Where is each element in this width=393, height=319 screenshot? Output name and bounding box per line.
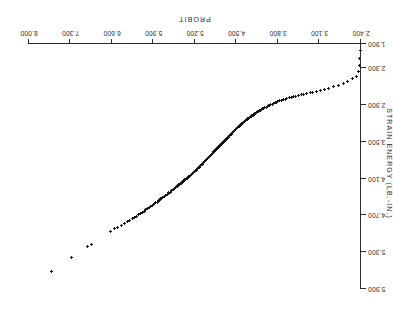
y-tick: [361, 178, 366, 179]
y-tick-label: 2.900: [368, 102, 385, 109]
x-tick: [319, 39, 320, 44]
data-point: [319, 89, 322, 92]
y-axis-title: STRAIN ENERGY (LB.-IN.): [386, 108, 393, 219]
data-point: [113, 227, 116, 230]
y-tick: [361, 141, 366, 142]
x-axis-line: [29, 43, 361, 44]
data-point: [328, 87, 331, 90]
x-tick: [236, 39, 237, 44]
y-tick-label: 1.900: [368, 41, 385, 48]
data-point: [116, 226, 119, 229]
x-tick: [277, 39, 278, 44]
x-tick-label: 8.000: [20, 30, 37, 37]
data-point: [323, 88, 326, 91]
x-tick-label: 7.300: [62, 30, 79, 37]
data-point: [315, 90, 318, 93]
y-tick-label: 2.300: [368, 65, 385, 72]
x-tick: [194, 39, 195, 44]
data-point: [337, 84, 340, 87]
y-tick: [361, 251, 366, 252]
data-point: [346, 80, 349, 83]
data-point: [86, 245, 89, 248]
x-tick-label: 5.900: [145, 30, 162, 37]
x-tick-label: 3.800: [269, 30, 286, 37]
y-tick-label: 3.500: [368, 139, 385, 146]
x-tick-label: 4.500: [228, 30, 245, 37]
x-tick-label: 2.400: [352, 30, 369, 37]
y-tick-label: 4.100: [368, 175, 385, 182]
x-tick-label: 5.200: [186, 30, 203, 37]
y-tick: [361, 288, 366, 289]
data-point: [90, 243, 93, 246]
x-axis-title: PROBIT: [0, 16, 389, 23]
y-tick: [361, 68, 366, 69]
data-point: [311, 91, 314, 94]
y-tick: [361, 43, 366, 44]
x-tick-label: 6.600: [103, 30, 120, 37]
x-tick: [70, 39, 71, 44]
y-tick-label: 4.700: [368, 212, 385, 219]
x-tick: [111, 39, 112, 44]
y-tick-label: 5.300: [368, 249, 385, 256]
y-tick: [361, 215, 366, 216]
x-tick-label: 3.100: [311, 30, 328, 37]
data-point: [355, 75, 358, 78]
x-tick: [28, 39, 29, 44]
y-tick: [361, 104, 366, 105]
plot-area: [29, 44, 361, 289]
y-tick-label: 5.900: [368, 286, 385, 293]
data-point: [109, 230, 112, 233]
data-point: [342, 82, 345, 85]
data-point: [332, 85, 335, 88]
data-point: [305, 92, 308, 95]
x-tick: [153, 39, 154, 44]
data-point: [351, 77, 354, 80]
data-point: [70, 256, 73, 259]
data-point: [50, 270, 53, 273]
